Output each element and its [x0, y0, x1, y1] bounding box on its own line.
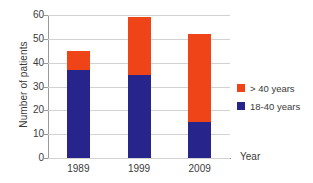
gridline-0	[48, 158, 230, 159]
legend-label: > 40 years	[250, 83, 295, 94]
bar-segment-18-40-1989	[67, 70, 90, 158]
bar-1989	[67, 51, 90, 158]
y-tick-label-0: 0	[4, 153, 44, 163]
x-tick-label-1989: 1989	[51, 163, 105, 174]
y-tick-label-50: 50	[4, 34, 44, 44]
y-tick-label-10: 10	[4, 129, 44, 139]
bar-2009	[188, 34, 211, 158]
bar-segment-over-40-1999	[128, 17, 151, 74]
y-tick-label-30: 30	[4, 82, 44, 92]
x-tick-label-2009: 2009	[173, 163, 227, 174]
y-tick-label-20: 20	[4, 105, 44, 115]
bar-segment-over-40-1989	[67, 51, 90, 70]
stacked-bar-chart: Number of patients 0102030405060 1989199…	[0, 0, 313, 183]
bar-segment-18-40-2009	[188, 122, 211, 158]
x-axis-title: Year	[240, 151, 260, 162]
legend-label: 18-40 years	[250, 101, 300, 112]
x-tick-label-1999: 1999	[112, 163, 166, 174]
legend-swatch-icon	[237, 102, 245, 110]
legend-item-over-40: > 40 years	[237, 79, 313, 97]
bar-segment-18-40-1999	[128, 75, 151, 158]
legend-item-18-40: 18-40 years	[237, 97, 313, 115]
legend-swatch-icon	[237, 84, 245, 92]
bar-segment-over-40-2009	[188, 34, 211, 122]
plot-area	[48, 15, 230, 158]
y-tick-label-40: 40	[4, 58, 44, 68]
y-axis-ticks: 0102030405060	[0, 15, 44, 158]
y-tick-label-60: 60	[4, 10, 44, 20]
gridline-60	[48, 15, 230, 16]
bar-1999	[128, 17, 151, 158]
chart-legend: > 40 years18-40 years	[237, 79, 313, 115]
